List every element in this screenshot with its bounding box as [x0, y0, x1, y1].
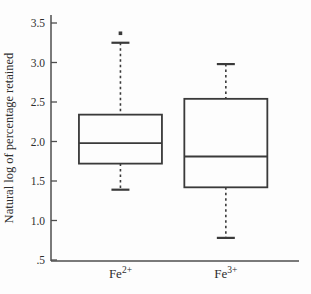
boxplot-chart: 3.53.02.52.01.51.0.5Natural log of perce…	[0, 0, 311, 294]
y-tick-label: 3.0	[31, 57, 46, 69]
y-tick-label: 3.5	[31, 17, 46, 29]
y-tick-label: 2.5	[31, 96, 46, 108]
y-tick-label: 1.0	[31, 215, 46, 227]
outlier-point	[119, 31, 123, 35]
iqr-box	[79, 115, 162, 164]
y-axis-title: Natural log of percentage retained	[2, 52, 16, 223]
boxplot-figure: 3.53.02.52.01.51.0.5Natural log of perce…	[0, 0, 311, 294]
x-category-label: Fe2+	[109, 265, 132, 281]
category-superscript: 3+	[227, 265, 237, 275]
category-base: Fe	[109, 266, 122, 281]
y-tick-label: 1.5	[31, 175, 46, 187]
x-category-label: Fe3+	[214, 265, 237, 281]
y-tick-label: 2.0	[31, 136, 46, 148]
box-group	[79, 31, 162, 189]
iqr-box	[184, 99, 267, 187]
category-superscript: 2+	[122, 265, 132, 275]
category-base: Fe	[214, 266, 227, 281]
y-tick-label: .5	[36, 254, 45, 266]
box-group	[184, 64, 267, 238]
